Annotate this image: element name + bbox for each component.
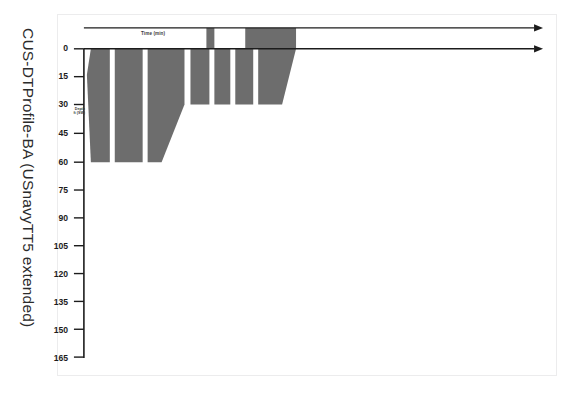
surface-block-narrow: [206, 28, 214, 49]
ytick-30: 30: [42, 99, 68, 109]
profile-deep-segment-2: [115, 49, 143, 162]
depth-axis-ticks: [74, 49, 84, 357]
page-title: CUS-DTProfile-BA (USnavyTT5 extended): [19, 14, 37, 327]
ytick-15: 15: [42, 71, 68, 81]
profile-stop-30-b: [214, 49, 230, 105]
ytick-45: 45: [42, 128, 68, 138]
depth-axis-label-line1: Depth: [75, 107, 85, 111]
time-axis-label: Time (min): [141, 31, 165, 36]
ytick-165: 165: [42, 353, 68, 363]
ytick-120: 120: [42, 269, 68, 279]
ytick-90: 90: [42, 213, 68, 223]
ytick-150: 150: [42, 325, 68, 335]
surface-block-wide: [245, 28, 296, 49]
profile-stop-30-c: [235, 49, 253, 105]
ytick-105: 105: [42, 241, 68, 251]
depth-axis-label-line2: ft (SW): [73, 111, 85, 115]
profile-stop-30-a: [190, 49, 209, 105]
chart-canvas: Time (min) Depth ft (SW) 0 15 30 45 60 7…: [57, 14, 557, 376]
ytick-60: 60: [42, 157, 68, 167]
ytick-75: 75: [42, 185, 68, 195]
profile-deep-segment: [87, 49, 110, 162]
dive-profile-plot: [58, 15, 556, 375]
ytick-0: 0: [42, 43, 68, 53]
ytick-135: 135: [42, 297, 68, 307]
profile-area-group: [87, 28, 296, 162]
screenshot-root: CUS-DTProfile-BA (USnavyTT5 extended): [0, 0, 579, 398]
profile-deep-ascent-ramp: [148, 49, 185, 162]
